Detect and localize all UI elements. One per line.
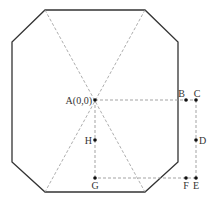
points: A(0,0)BCDEFGH xyxy=(66,88,207,191)
dashed-path xyxy=(95,100,196,178)
point-g: G xyxy=(91,176,98,191)
point-label: C xyxy=(194,88,201,99)
point-label: F xyxy=(183,180,189,191)
point-label: G xyxy=(91,180,98,191)
point-c: C xyxy=(194,88,201,102)
point-label: H xyxy=(85,135,92,146)
octagon-diagram: A(0,0)BCDEFGH xyxy=(0,0,212,205)
point-marker-icon xyxy=(93,138,97,142)
point-label: A(0,0) xyxy=(66,95,92,107)
point-label: D xyxy=(199,135,206,146)
point-label: B xyxy=(178,88,185,99)
point-marker-icon xyxy=(93,98,97,102)
point-label: E xyxy=(193,180,199,191)
point-b: B xyxy=(178,88,187,102)
point-a: A(0,0) xyxy=(66,95,97,107)
point-marker-icon xyxy=(194,138,198,142)
